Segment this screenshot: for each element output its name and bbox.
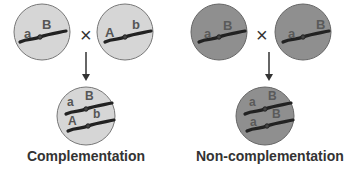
caption-non-complementation: Non-complementation xyxy=(196,148,336,164)
allele-label: A xyxy=(105,25,115,40)
allele-label: a xyxy=(288,26,296,41)
offspring-cell: a B A b xyxy=(57,87,115,145)
parent-cell-aB-1: a B xyxy=(191,4,247,60)
cross-icon: × xyxy=(80,24,92,46)
allele-label: B xyxy=(223,18,232,33)
allele-label: B xyxy=(316,17,325,32)
allele-label: b xyxy=(93,107,100,121)
caption-complementation: Complementation xyxy=(26,148,146,164)
parent-cell-Ab: A b xyxy=(97,4,153,60)
allele-label: B xyxy=(268,89,277,103)
allele-label: B xyxy=(42,17,51,32)
arrow-down-icon xyxy=(265,52,273,81)
offspring-cell: a B a B xyxy=(236,87,294,145)
allele-label: a xyxy=(67,95,74,109)
allele-label: a xyxy=(24,26,32,41)
allele-label: b xyxy=(132,17,140,32)
allele-label: A xyxy=(68,114,77,128)
cross-icon: × xyxy=(256,24,268,46)
allele-label: B xyxy=(85,89,94,103)
panel-non-complementation: a B × a B a B a B xyxy=(191,4,331,145)
allele-label: B xyxy=(272,107,281,121)
panel-complementation: a B × A b a B A b xyxy=(14,4,153,145)
parent-cell-aB-2: a B xyxy=(275,4,331,60)
allele-label: a xyxy=(204,26,212,41)
arrow-down-icon xyxy=(82,52,90,81)
allele-label: a xyxy=(249,95,256,109)
parent-cell-aB: a B xyxy=(14,4,70,60)
allele-label: a xyxy=(250,115,257,129)
